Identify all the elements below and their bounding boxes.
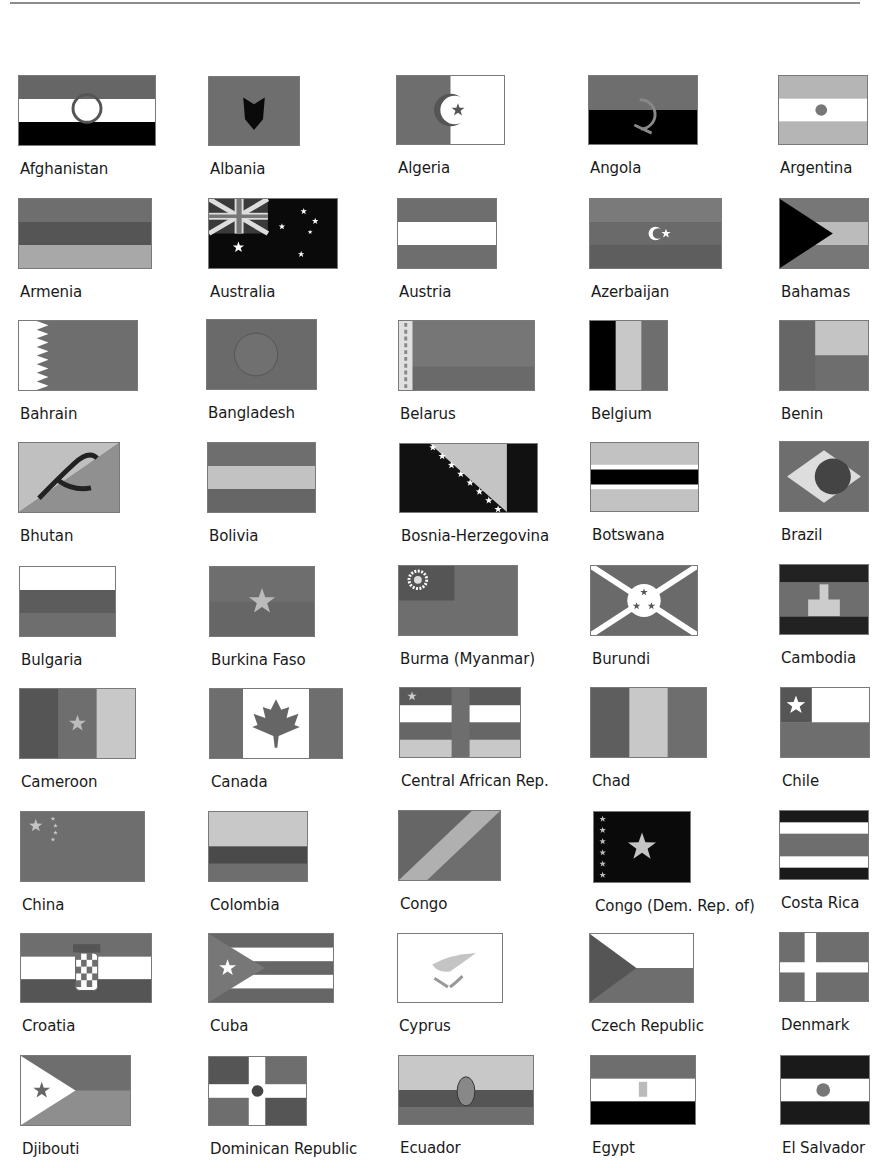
flag-djibouti-icon — [20, 1055, 131, 1126]
flag-bahrain-icon — [18, 320, 138, 391]
flag-item-cambodia: Cambodia — [779, 564, 874, 679]
country-label: Afghanistan — [20, 160, 108, 178]
flag-item-costa-rica: Costa Rica — [779, 810, 874, 925]
flag-el-salvador-icon — [780, 1055, 870, 1125]
flag-item-belgium: Belgium — [589, 320, 769, 435]
country-label: Burma (Myanmar) — [400, 650, 535, 668]
country-label: Central African Rep. — [401, 772, 549, 790]
flag-item-djibouti: Djibouti — [20, 1055, 200, 1168]
country-label: Belgium — [591, 405, 652, 423]
flag-item-denmark: Denmark — [779, 932, 874, 1047]
flag-item-botswana: Botswana — [590, 442, 770, 557]
country-label: Australia — [210, 283, 275, 301]
flag-algeria-icon — [396, 75, 505, 145]
flag-item-burundi: Burundi — [590, 565, 770, 680]
flag-azerbaijan-icon — [589, 198, 722, 269]
flag-burundi-icon — [590, 565, 698, 636]
flag-brazil-icon — [779, 441, 869, 512]
flag-cameroon-icon — [19, 688, 136, 759]
flag-item-bosnia-herzegovina: Bosnia-Herzegovina — [399, 443, 579, 558]
country-label: Belarus — [400, 405, 456, 423]
flag-belarus-icon — [398, 320, 535, 391]
country-label: Czech Republic — [591, 1017, 704, 1035]
flag-item-argentina: Argentina — [778, 75, 874, 190]
country-label: Angola — [590, 159, 641, 177]
flag-denmark-icon — [779, 932, 869, 1002]
flag-dominican-republic-icon — [208, 1056, 307, 1126]
country-label: Colombia — [210, 896, 280, 914]
flag-congo-dem-rep-of-icon — [593, 811, 691, 883]
flag-item-czech-republic: Czech Republic — [589, 933, 769, 1048]
flag-item-croatia: Croatia — [20, 933, 200, 1048]
flag-item-el-salvador: El Salvador — [780, 1055, 874, 1168]
country-label: Bulgaria — [21, 651, 82, 669]
country-label: Ecuador — [400, 1139, 461, 1157]
country-label: Egypt — [592, 1139, 635, 1157]
flag-item-albania: Albania — [208, 76, 388, 191]
country-label: Bolivia — [209, 527, 258, 545]
flag-item-chile: Chile — [780, 687, 874, 802]
country-label: Bosnia-Herzegovina — [401, 527, 549, 545]
flag-cyprus-icon — [397, 933, 503, 1003]
flag-bosnia-herzegovina-icon — [399, 443, 538, 513]
flag-chile-icon — [780, 687, 870, 758]
flag-item-burma-myanmar: Burma (Myanmar) — [398, 565, 578, 680]
flag-costa-rica-icon — [779, 810, 869, 880]
flag-croatia-icon — [20, 933, 152, 1003]
flag-cambodia-icon — [779, 564, 869, 635]
flag-item-australia: Australia — [208, 198, 388, 313]
country-label: Cambodia — [781, 649, 856, 667]
flag-bhutan-icon — [18, 442, 120, 513]
flag-item-canada: Canada — [209, 688, 389, 803]
flag-item-bhutan: Bhutan — [18, 442, 198, 557]
flag-colombia-icon — [208, 811, 308, 882]
flag-item-cuba: Cuba — [208, 933, 388, 1048]
country-label: Chile — [782, 772, 819, 790]
flag-item-congo-dem-rep-of: Congo (Dem. Rep. of) — [593, 811, 773, 926]
country-label: Djibouti — [22, 1140, 79, 1158]
flag-item-brazil: Brazil — [779, 441, 874, 556]
country-label: Albania — [210, 160, 265, 178]
country-label: Brazil — [781, 526, 822, 544]
country-label: Denmark — [781, 1016, 849, 1034]
flag-central-african-rep-icon — [399, 687, 521, 758]
country-label: Argentina — [780, 159, 852, 177]
flag-burkina-faso-icon — [209, 566, 315, 637]
flag-burma-myanmar-icon — [398, 565, 518, 636]
country-label: Dominican Republic — [210, 1140, 357, 1158]
flag-item-bahrain: Bahrain — [18, 320, 198, 435]
top-rule — [10, 2, 860, 4]
flag-austria-icon — [397, 198, 497, 269]
flag-item-bulgaria: Bulgaria — [19, 566, 199, 681]
flag-item-azerbaijan: Azerbaijan — [589, 198, 769, 313]
country-label: Benin — [781, 405, 823, 423]
flag-argentina-icon — [778, 75, 868, 145]
flag-botswana-icon — [590, 442, 699, 512]
country-label: Chad — [592, 772, 630, 790]
flag-canada-icon — [209, 688, 343, 759]
country-label: Austria — [399, 283, 451, 301]
flag-bulgaria-icon — [19, 566, 116, 637]
country-label: Bangladesh — [208, 404, 295, 422]
flag-bahamas-icon — [779, 198, 869, 269]
flag-item-algeria: Algeria — [396, 75, 576, 190]
flag-china-icon — [20, 811, 145, 882]
flag-bolivia-icon — [207, 442, 316, 513]
flag-item-cyprus: Cyprus — [397, 933, 577, 1048]
country-label: Azerbaijan — [591, 283, 669, 301]
country-label: Algeria — [398, 159, 450, 177]
flag-bangladesh-icon — [206, 319, 317, 390]
country-label: Congo — [400, 895, 447, 913]
country-label: Bhutan — [20, 527, 73, 545]
flag-item-benin: Benin — [779, 320, 874, 435]
flag-belgium-icon — [589, 320, 668, 391]
country-label: China — [22, 896, 64, 914]
country-label: Bahrain — [20, 405, 77, 423]
flag-item-chad: Chad — [590, 687, 770, 802]
country-label: Armenia — [20, 283, 82, 301]
flag-czech-republic-icon — [589, 933, 694, 1003]
flag-congo-icon — [398, 810, 501, 881]
country-label: Costa Rica — [781, 894, 859, 912]
country-label: Croatia — [22, 1017, 75, 1035]
flag-item-angola: Angola — [588, 75, 768, 190]
